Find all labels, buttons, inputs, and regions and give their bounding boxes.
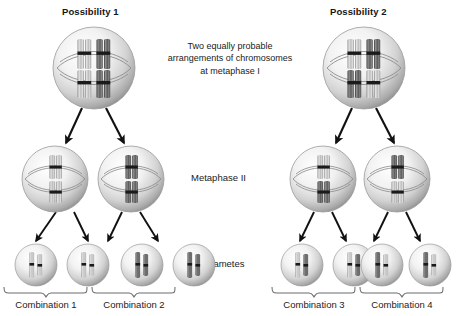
bracket-combination-2: [92, 287, 175, 297]
bracket-layer: [0, 0, 460, 316]
bracket-combination-4: [360, 287, 443, 297]
combination-2-label: Combination 2: [88, 299, 180, 310]
meiosis-diagram: Possibility 1 Possibility 2 Two equally …: [0, 0, 460, 316]
combination-1-label: Combination 1: [0, 299, 92, 310]
bracket-combination-3: [272, 287, 355, 297]
combination-3-label: Combination 3: [268, 299, 360, 310]
combination-4-label: Combination 4: [356, 299, 448, 310]
bracket-combination-1: [4, 287, 87, 297]
